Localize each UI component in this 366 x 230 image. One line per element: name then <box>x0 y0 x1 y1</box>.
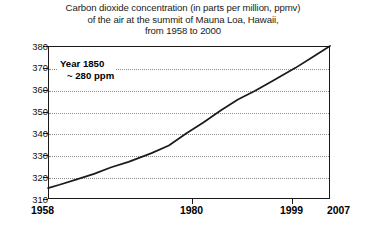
y-axis-label-330: 330 <box>18 151 48 160</box>
annotation-line-2: ~ 280 ppm <box>60 70 114 82</box>
chart-title-line-1: Carbon dioxide concentration (in parts p… <box>0 2 366 14</box>
y-axis-label-370: 370 <box>18 63 48 72</box>
y-axis-labels: 380 370 360 350 340 330 320 310 <box>12 0 48 230</box>
x-axis-label-1958: 1958 <box>31 205 54 217</box>
y-axis-label-310: 310 <box>18 195 48 204</box>
x-axis-label-1980: 1980 <box>180 205 203 217</box>
y-axis-label-360: 360 <box>18 85 48 94</box>
y-axis-label-380: 380 <box>18 42 48 51</box>
y-axis-label-350: 350 <box>18 107 48 116</box>
x-tick-mark-1980 <box>192 199 193 204</box>
co2-line-chart: Carbon dioxide concentration (in parts p… <box>0 0 366 230</box>
chart-title-line-3: from 1958 to 2000 <box>0 25 366 37</box>
annotation-year-1850: Year 1850 ~ 280 ppm <box>58 58 116 83</box>
y-axis-label-340: 340 <box>18 129 48 138</box>
chart-title-line-2: of the air at the summit of Mauna Loa, H… <box>0 14 366 26</box>
x-axis-label-2007: 2007 <box>327 205 350 217</box>
y-axis-label-320: 320 <box>18 173 48 182</box>
chart-title: Carbon dioxide concentration (in parts p… <box>0 2 366 37</box>
x-axis-label-1999: 1999 <box>280 205 303 217</box>
annotation-line-1: Year 1850 <box>60 58 114 70</box>
x-tick-mark-1999 <box>292 199 293 204</box>
